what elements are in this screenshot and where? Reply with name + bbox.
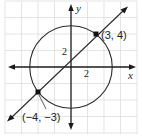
y-axis-up-arrow-icon <box>68 4 73 11</box>
x-axis-left-arrow-icon <box>8 64 15 69</box>
point-neg4-neg3-marker <box>36 90 41 95</box>
y-axis-label: y <box>75 2 81 14</box>
graph-canvas: (3, 4) (−4, −3) 2 2 x y <box>0 0 142 138</box>
x-tick-label: 2 <box>84 68 89 79</box>
y-tick-label: 2 <box>62 46 67 57</box>
point-3-4-label: (3, 4) <box>101 29 127 41</box>
point-3-4-marker <box>94 32 99 37</box>
coordinate-plane-diagram: (3, 4) (−4, −3) 2 2 x y <box>0 0 142 138</box>
y-axis-down-arrow-icon <box>68 123 73 130</box>
point-neg4-neg3-label: (−4, −3) <box>22 111 61 123</box>
x-axis-label: x <box>127 69 133 81</box>
x-axis <box>8 64 136 69</box>
line-graph <box>7 7 128 122</box>
